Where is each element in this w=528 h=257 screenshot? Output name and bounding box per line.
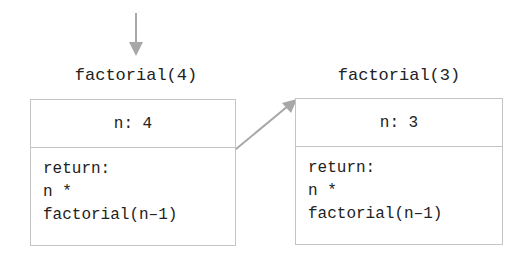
body-line: n * [43, 181, 235, 204]
frame-title-factorial-4: factorial(4) [33, 66, 239, 85]
frame-title-factorial-3: factorial(3) [296, 66, 502, 85]
body-line: return: [308, 157, 502, 180]
frame-param: n: 4 [31, 100, 235, 148]
stack-frame-factorial-3: n: 3 return: n * factorial(n–1) [295, 98, 503, 245]
body-line: factorial(n–1) [43, 204, 235, 227]
body-line: factorial(n–1) [308, 203, 502, 226]
entry-arrow-icon [129, 13, 143, 56]
frame-body: return: n * factorial(n–1) [31, 148, 235, 227]
body-line: n * [308, 180, 502, 203]
frame-body: return: n * factorial(n–1) [296, 147, 502, 226]
stack-frame-factorial-4: n: 4 return: n * factorial(n–1) [30, 99, 236, 246]
body-line: return: [43, 158, 235, 181]
frame-param: n: 3 [296, 99, 502, 147]
